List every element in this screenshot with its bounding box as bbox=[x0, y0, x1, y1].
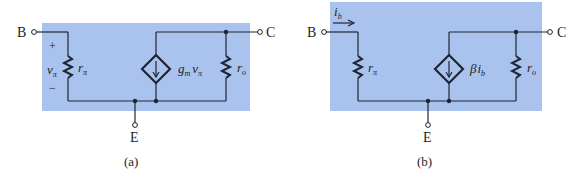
caption-b: (b) bbox=[417, 154, 432, 169]
panel-b-shading bbox=[330, 2, 542, 111]
label-base-a: B bbox=[17, 25, 26, 40]
plus-sign: + bbox=[49, 39, 56, 53]
emitter-terminal-a[interactable] bbox=[133, 123, 138, 128]
junction-dot bbox=[514, 30, 518, 34]
base-terminal-b[interactable] bbox=[322, 30, 327, 35]
label-emitter-b: E bbox=[423, 130, 432, 145]
label-collector-a: C bbox=[266, 25, 275, 40]
hybrid-pi-model-a: B + − vπ rπ gmvπ ro bbox=[17, 23, 275, 169]
junction-dot bbox=[154, 99, 158, 103]
caption-a: (a) bbox=[124, 154, 138, 169]
emitter-terminal-b[interactable] bbox=[426, 123, 431, 128]
label-emitter-a: E bbox=[130, 130, 139, 145]
collector-terminal-a[interactable] bbox=[258, 30, 263, 35]
label-collector-b: C bbox=[557, 25, 566, 40]
collector-terminal-b[interactable] bbox=[548, 30, 553, 35]
base-terminal-a[interactable] bbox=[32, 30, 37, 35]
label-base-b: B bbox=[307, 25, 316, 40]
junction-dot bbox=[447, 99, 451, 103]
t-model-b: ib B rπ βib ro bbox=[307, 2, 566, 169]
minus-sign: − bbox=[49, 81, 56, 95]
junction-dot bbox=[224, 30, 228, 34]
